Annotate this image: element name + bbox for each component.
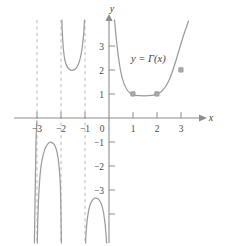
- x-tick-label-2: 2: [155, 124, 160, 134]
- x-tick-label-3: 3: [179, 124, 184, 134]
- y-axis-label: y: [109, 3, 115, 14]
- x-tick-label-1: 1: [131, 124, 136, 134]
- x-axis-label: x: [208, 112, 214, 123]
- y-tick-marks: [109, 46, 115, 214]
- gamma-function-figure: −3 −2 −1 0 1 2 3 3 2 1 −1 −2 −3 x y y = …: [0, 0, 227, 246]
- marker-point-1-1: [131, 92, 136, 97]
- x-tick-label--2: −2: [56, 124, 66, 134]
- x-tick-labels: −3 −2 −1 0 1 2 3: [32, 124, 184, 134]
- curve-branch-neg2-to-neg1: [62, 20, 85, 70]
- y-tick-label-2: 2: [99, 66, 104, 76]
- y-tick-label--3: −3: [94, 186, 104, 196]
- y-tick-label--1: −1: [94, 138, 104, 148]
- marker-point-2-1: [155, 92, 160, 97]
- x-tick-label--1: −1: [80, 124, 90, 134]
- curve-branch-neg1-to-0: [86, 198, 107, 243]
- y-axis-arrow: [105, 14, 112, 21]
- plot-canvas: −3 −2 −1 0 1 2 3 3 2 1 −1 −2 −3 x y y = …: [0, 0, 227, 246]
- x-tick-label--3: −3: [32, 124, 42, 134]
- curve-branch-left-of-neg3: [34, 121, 36, 243]
- data-point-markers: [131, 68, 184, 97]
- y-tick-label-3: 3: [99, 42, 104, 52]
- curve-equation-label: y = Γ(x): [130, 53, 166, 65]
- x-axis-arrow: [199, 114, 207, 121]
- y-tick-label-1: 1: [99, 90, 104, 100]
- marker-point-3-2: [179, 68, 184, 73]
- x-tick-label-0: 0: [100, 124, 105, 134]
- curve-branch-neg3-to-neg2: [37, 142, 61, 243]
- y-tick-label--2: −2: [94, 162, 104, 172]
